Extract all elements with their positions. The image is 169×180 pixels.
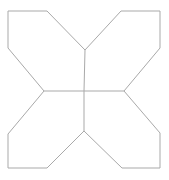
geometric-net-figure: Four-petal cross net Line drawing of a s… (0, 0, 169, 180)
